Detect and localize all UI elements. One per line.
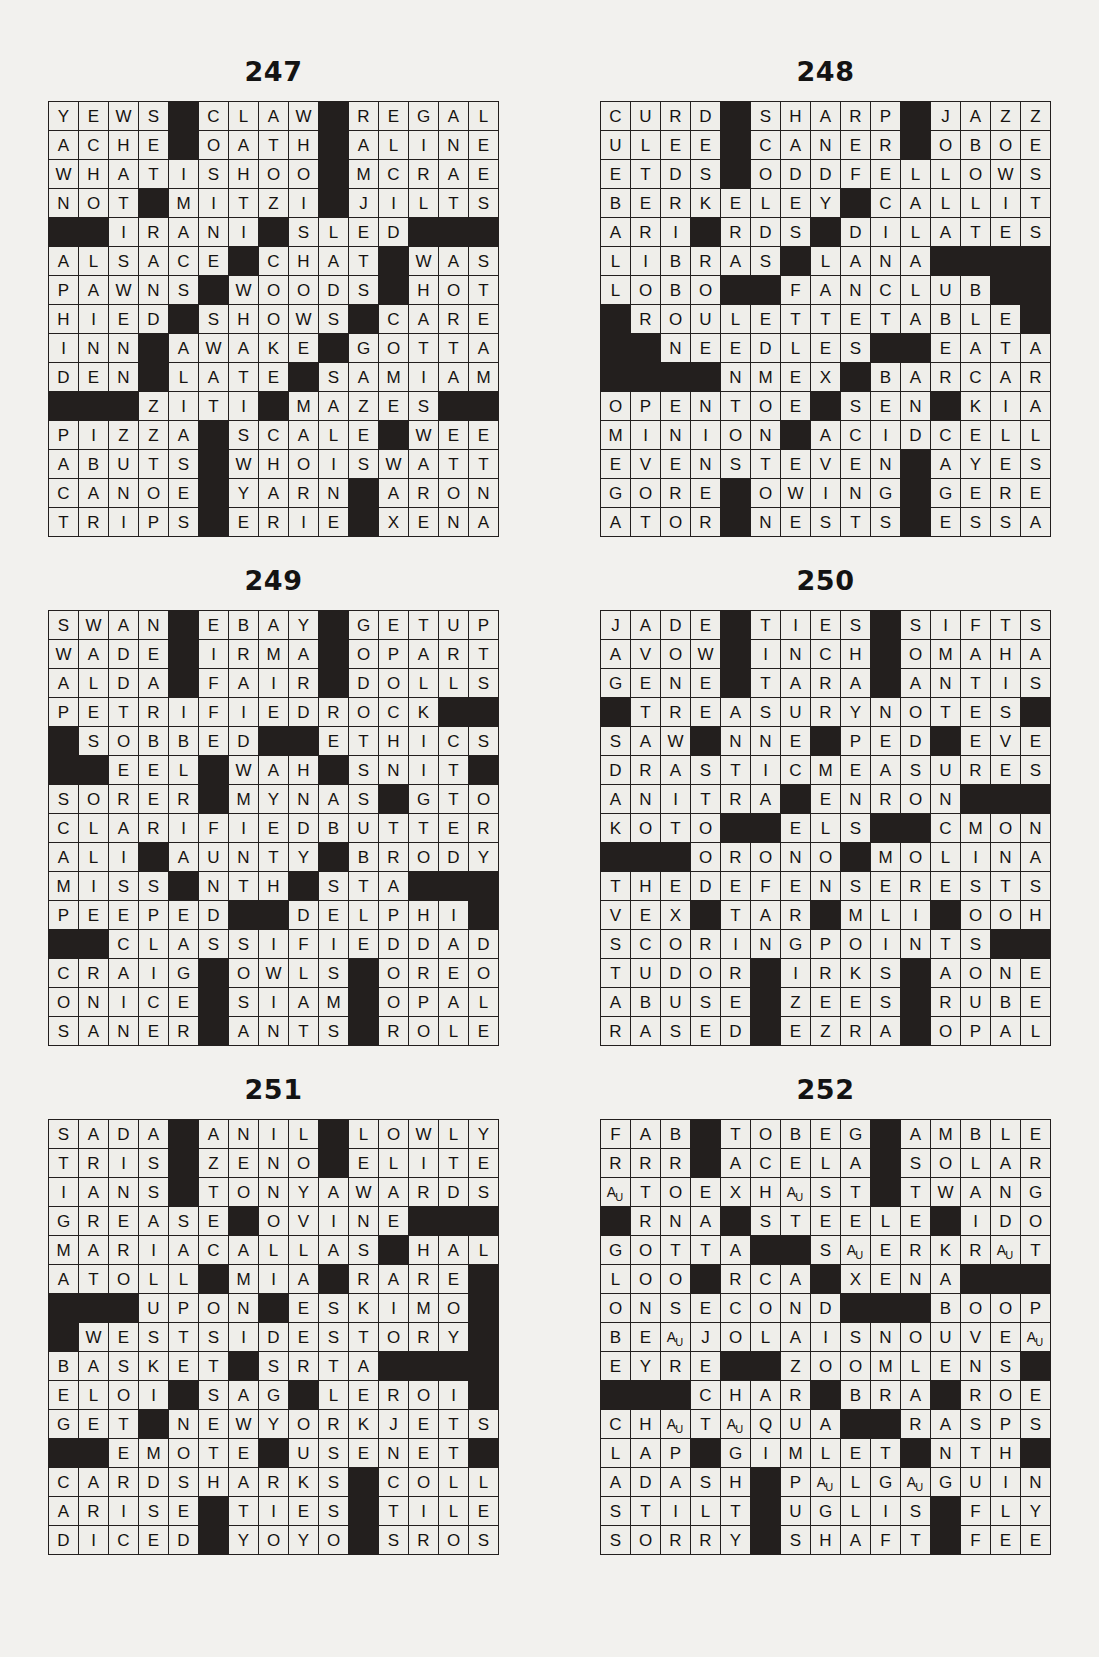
letter-cell: W (661, 727, 690, 755)
letter-cell: T (901, 1526, 930, 1554)
letter-cell: L (931, 843, 960, 871)
letter-cell: C (379, 305, 408, 333)
letter-cell: N (379, 1439, 408, 1467)
letter-cell: W (289, 102, 318, 130)
letter-cell: A (139, 669, 168, 697)
letter-cell: D (289, 901, 318, 929)
letter-cell: A (631, 611, 660, 639)
block-cell (259, 218, 288, 246)
block-cell (871, 814, 900, 842)
letter-cell: L (79, 843, 108, 871)
letter-cell: S (379, 1526, 408, 1554)
letter-cell: A (439, 160, 468, 188)
letter-cell: E (991, 1526, 1020, 1554)
letter-cell: D (661, 959, 690, 987)
letter-cell: I (109, 508, 138, 536)
letter-cell: D (109, 1120, 138, 1148)
block-cell (79, 930, 108, 958)
letter-cell: E (721, 189, 750, 217)
letter-cell: S (601, 727, 630, 755)
letter-cell: E (691, 1017, 720, 1045)
letter-cell: Y (721, 1526, 750, 1554)
letter-cell: S (49, 611, 78, 639)
letter-cell: P (661, 1439, 690, 1467)
letter-cell: E (199, 247, 228, 275)
letter-cell: E (169, 479, 198, 507)
letter-cell: O (289, 276, 318, 304)
block-cell (319, 131, 348, 159)
letter-cell: O (439, 1526, 468, 1554)
block-cell (259, 901, 288, 929)
letter-cell: I (259, 930, 288, 958)
letter-cell: E (79, 698, 108, 726)
letter-cell: J (691, 1323, 720, 1351)
block-cell (721, 669, 750, 697)
letter-cell: I (49, 334, 78, 362)
block-cell (1021, 1439, 1050, 1467)
letter-cell: N (79, 334, 108, 362)
letter-cell: S (961, 508, 990, 536)
letter-cell: H (259, 450, 288, 478)
letter-cell: P (961, 1017, 990, 1045)
letter-cell: E (961, 421, 990, 449)
letter-cell: L (901, 276, 930, 304)
letter-cell: C (811, 640, 840, 668)
letter-cell: O (349, 698, 378, 726)
letter-cell: I (631, 247, 660, 275)
letter-cell: A (319, 1236, 348, 1264)
letter-cell: O (259, 305, 288, 333)
block-cell (169, 669, 198, 697)
letter-cell: E (781, 363, 810, 391)
letter-cell: E (781, 189, 810, 217)
letter-cell: R (871, 785, 900, 813)
letter-cell: D (691, 872, 720, 900)
letter-cell: R (871, 1381, 900, 1409)
block-cell (991, 1265, 1020, 1293)
letter-cell: R (631, 1149, 660, 1177)
block-cell (169, 1381, 198, 1409)
letter-cell: T (691, 1236, 720, 1264)
letter-cell: D (409, 930, 438, 958)
letter-cell: A (79, 1468, 108, 1496)
letter-cell: N (691, 450, 720, 478)
letter-cell: R (1021, 363, 1050, 391)
letter-cell: A (1021, 334, 1050, 362)
block-cell (79, 1439, 108, 1467)
letter-cell: E (139, 131, 168, 159)
letter-cell: S (811, 1236, 840, 1264)
block-cell (721, 508, 750, 536)
letter-cell: R (901, 872, 930, 900)
letter-cell: S (349, 785, 378, 813)
letter-cell: P (49, 901, 78, 929)
block-cell (409, 218, 438, 246)
letter-cell: E (811, 611, 840, 639)
letter-cell: C (931, 814, 960, 842)
letter-cell: W (409, 421, 438, 449)
block-cell (931, 392, 960, 420)
letter-cell: R (661, 698, 690, 726)
letter-cell: I (259, 1120, 288, 1148)
letter-cell: I (811, 479, 840, 507)
letter-cell: L (469, 1236, 498, 1264)
letter-cell: D (139, 305, 168, 333)
block-cell (751, 1497, 780, 1525)
letter-cell: R (79, 1207, 108, 1235)
letter-cell: A (721, 1236, 750, 1264)
letter-cell: A (601, 1468, 630, 1496)
letter-cell: N (349, 1207, 378, 1235)
block-cell (601, 843, 630, 871)
letter-cell: H (991, 640, 1020, 668)
letter-cell: X (379, 508, 408, 536)
letter-cell: W (409, 1120, 438, 1148)
letter-cell: T (109, 1410, 138, 1438)
letter-cell: R (319, 1410, 348, 1438)
block-cell (931, 1497, 960, 1525)
block-cell (781, 785, 810, 813)
block-cell (1021, 1265, 1050, 1293)
letter-cell: T (259, 843, 288, 871)
letter-cell: R (661, 1526, 690, 1554)
block-cell (901, 1294, 930, 1322)
block-cell (751, 814, 780, 842)
letter-cell: D (319, 276, 348, 304)
letter-cell: X (841, 1265, 870, 1293)
